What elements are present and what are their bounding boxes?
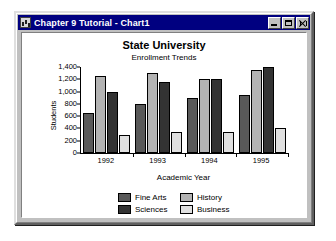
- y-tick-label: 1,000: [58, 88, 77, 96]
- x-tick-label: 1992: [98, 156, 115, 165]
- bar[interactable]: [159, 82, 170, 153]
- legend-label: Sciences: [135, 205, 167, 214]
- bar-group[interactable]: [81, 67, 133, 153]
- x-axis-title: Academic Year: [80, 173, 287, 182]
- legend-label: History: [197, 193, 222, 202]
- desktop-background: Chapter 9 Tutorial - Chart1 State Univer…: [0, 0, 336, 241]
- chart-sheet[interactable]: State University Enrollment Trends Stude…: [21, 32, 307, 218]
- x-axis-tick-labels: 1992199319941995: [80, 156, 287, 168]
- close-icon-stroke-1: [299, 19, 306, 26]
- x-tick-label: 1995: [253, 156, 270, 165]
- x-tick-label: 1993: [149, 156, 166, 165]
- bar[interactable]: [171, 132, 182, 154]
- plot-wrapper: Students 02004006008001,0001,2001,400 19…: [22, 33, 306, 217]
- bar[interactable]: [263, 67, 274, 153]
- bar[interactable]: [251, 70, 262, 153]
- legend-item[interactable]: Sciences: [118, 205, 180, 214]
- y-tick-label: 600: [64, 112, 77, 120]
- chart-legend[interactable]: Fine ArtsHistorySciencesBusiness: [118, 191, 250, 215]
- maximize-button[interactable]: [282, 17, 295, 29]
- bar[interactable]: [95, 76, 106, 153]
- bar-group[interactable]: [133, 67, 185, 153]
- bar[interactable]: [223, 132, 234, 154]
- legend-swatch: [118, 205, 131, 214]
- close-icon-stroke-2: [299, 19, 306, 26]
- close-button[interactable]: [296, 17, 309, 29]
- y-tick-label: 1,200: [58, 76, 77, 84]
- bar[interactable]: [239, 95, 250, 153]
- chart-window[interactable]: Chapter 9 Tutorial - Chart1 State Univer…: [14, 11, 314, 225]
- bar[interactable]: [147, 73, 158, 153]
- bar[interactable]: [83, 113, 94, 153]
- title-bar[interactable]: Chapter 9 Tutorial - Chart1: [18, 15, 310, 30]
- plot-area[interactable]: [80, 67, 288, 154]
- y-tick-label: 400: [64, 125, 77, 133]
- legend-label: Fine Arts: [135, 193, 167, 202]
- legend-swatch: [118, 193, 131, 202]
- window-title: Chapter 9 Tutorial - Chart1: [34, 18, 267, 28]
- bar-group[interactable]: [185, 67, 237, 153]
- legend-item[interactable]: Business: [180, 205, 250, 214]
- y-tick-label: 1,400: [58, 63, 77, 71]
- bar[interactable]: [107, 92, 118, 153]
- y-tick-label: 800: [64, 100, 77, 108]
- bar[interactable]: [135, 104, 146, 153]
- x-tick-mark: [288, 153, 289, 157]
- bar[interactable]: [187, 98, 198, 153]
- chart-document-icon: [20, 17, 31, 28]
- legend-swatch: [180, 205, 193, 214]
- y-axis-ticks: 02004006008001,0001,2001,400: [40, 67, 80, 153]
- x-tick-label: 1994: [201, 156, 218, 165]
- legend-label: Business: [197, 205, 229, 214]
- y-tick-label: 200: [64, 137, 77, 145]
- bar[interactable]: [199, 79, 210, 153]
- bar[interactable]: [275, 128, 286, 153]
- bar[interactable]: [119, 135, 130, 153]
- legend-item[interactable]: History: [180, 193, 250, 202]
- legend-item[interactable]: Fine Arts: [118, 193, 180, 202]
- legend-swatch: [180, 193, 193, 202]
- bar-group[interactable]: [236, 67, 288, 153]
- bar[interactable]: [211, 79, 222, 153]
- minimize-button[interactable]: [268, 17, 281, 29]
